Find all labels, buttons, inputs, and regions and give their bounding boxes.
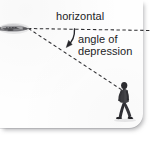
angle-of-depression-diagram [0, 0, 151, 148]
label-depression: depression [78, 46, 132, 57]
label-horizontal: horizontal [56, 11, 104, 22]
angle-arc-arrow-icon [66, 29, 74, 48]
label-angle-of: angle of [78, 34, 118, 45]
airplane-icon [0, 23, 30, 34]
horizontal-dashed-line [28, 29, 151, 31]
walking-person-icon [114, 82, 136, 122]
